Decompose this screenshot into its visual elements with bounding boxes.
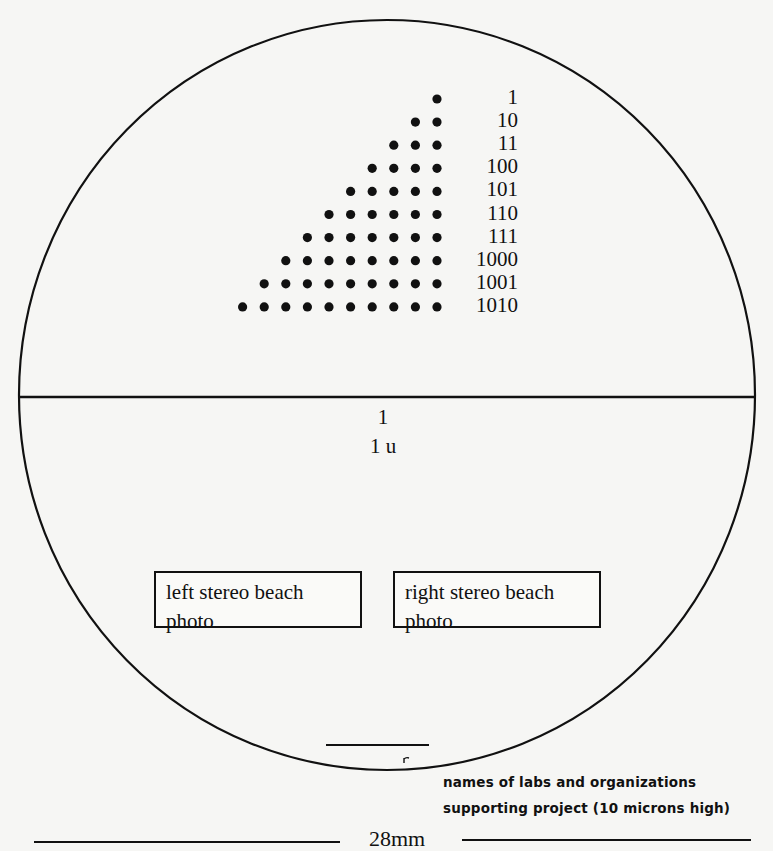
dot bbox=[368, 187, 377, 196]
dot bbox=[346, 256, 355, 265]
dot bbox=[303, 279, 312, 288]
dot bbox=[303, 233, 312, 242]
binary-label: 101 bbox=[438, 178, 518, 201]
dot bbox=[346, 187, 355, 196]
caption-line-1: names of labs and organizations bbox=[443, 774, 696, 790]
binary-label: 1 bbox=[438, 86, 518, 109]
dot bbox=[260, 279, 269, 288]
binary-label: 110 bbox=[438, 202, 518, 225]
left-photo-box: left stereo beach photo bbox=[154, 571, 362, 628]
dot bbox=[238, 302, 247, 311]
binary-label: 11 bbox=[438, 132, 518, 155]
dot bbox=[389, 164, 398, 173]
tick-mark-icon bbox=[404, 758, 409, 763]
dot bbox=[411, 187, 420, 196]
dot bbox=[389, 210, 398, 219]
dot bbox=[389, 256, 398, 265]
dot bbox=[346, 210, 355, 219]
dot bbox=[389, 279, 398, 288]
left-photo-label: left stereo beach photo bbox=[166, 578, 356, 636]
dot bbox=[389, 187, 398, 196]
right-photo-label: right stereo beach photo bbox=[405, 578, 605, 636]
dot bbox=[389, 141, 398, 150]
binary-label: 111 bbox=[438, 225, 518, 248]
caption-line-2: supporting project (10 microns high) bbox=[443, 800, 730, 816]
dot bbox=[281, 256, 290, 265]
right-photo-box: right stereo beach photo bbox=[393, 571, 601, 628]
dot bbox=[411, 256, 420, 265]
dot bbox=[389, 233, 398, 242]
disc-outline bbox=[19, 20, 755, 770]
dot-triangle bbox=[238, 94, 442, 311]
dot bbox=[324, 256, 333, 265]
dot bbox=[303, 256, 312, 265]
dot bbox=[411, 164, 420, 173]
dot bbox=[324, 233, 333, 242]
dot bbox=[411, 302, 420, 311]
dot bbox=[368, 256, 377, 265]
dot bbox=[389, 302, 398, 311]
dot bbox=[411, 118, 420, 127]
binary-label: 100 bbox=[438, 155, 518, 178]
dot bbox=[346, 233, 355, 242]
dot bbox=[324, 302, 333, 311]
binary-label: 10 bbox=[438, 109, 518, 132]
dot bbox=[411, 233, 420, 242]
dot bbox=[411, 141, 420, 150]
scale-label-28mm: 28mm bbox=[369, 826, 425, 851]
dot bbox=[281, 302, 290, 311]
dot bbox=[324, 279, 333, 288]
scale-marker-unit: 1 u bbox=[343, 434, 423, 459]
binary-label: 1001 bbox=[438, 271, 518, 294]
dot bbox=[368, 302, 377, 311]
scale-marker-number: 1 bbox=[343, 405, 423, 430]
dot bbox=[368, 233, 377, 242]
dot bbox=[260, 302, 269, 311]
dot bbox=[346, 279, 355, 288]
dot bbox=[368, 279, 377, 288]
dot bbox=[411, 210, 420, 219]
dot bbox=[411, 279, 420, 288]
dot bbox=[346, 302, 355, 311]
dot bbox=[324, 210, 333, 219]
dot bbox=[281, 279, 290, 288]
binary-label: 1000 bbox=[438, 248, 518, 271]
dot bbox=[368, 210, 377, 219]
binary-label: 1010 bbox=[438, 294, 518, 317]
dot bbox=[303, 302, 312, 311]
dot bbox=[368, 164, 377, 173]
